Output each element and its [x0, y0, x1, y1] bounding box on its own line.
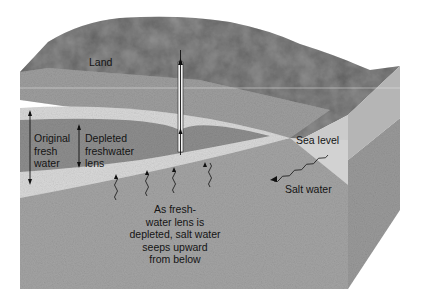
- freshwater-lens-diagram: Land Original fresh water Depleted fresh…: [0, 0, 429, 305]
- original-fresh-water-label: Original fresh water: [34, 132, 70, 170]
- depleted-lens-label: Depleted freshwater lens: [85, 132, 134, 170]
- land-label: Land: [89, 56, 112, 69]
- caption-label: As fresh- water lens is depleted, salt w…: [120, 203, 230, 266]
- salt-water-label: Salt water: [285, 183, 332, 196]
- sea-level-label: Sea level: [296, 134, 339, 147]
